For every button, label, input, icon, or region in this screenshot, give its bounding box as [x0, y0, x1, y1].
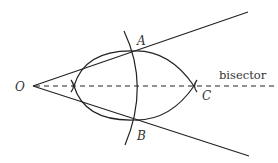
- c-tick-mark: [195, 80, 198, 92]
- angle-bisector-diagram: O A B C bisector: [0, 0, 278, 163]
- label-b: B: [136, 129, 146, 143]
- label-o: O: [15, 80, 25, 94]
- lower-ray: [33, 86, 249, 156]
- label-bisector: bisector: [219, 68, 267, 82]
- upper-ray: [33, 12, 248, 86]
- arc-from-vertex: [124, 31, 137, 145]
- label-c: C: [202, 89, 211, 103]
- label-a: A: [136, 34, 146, 48]
